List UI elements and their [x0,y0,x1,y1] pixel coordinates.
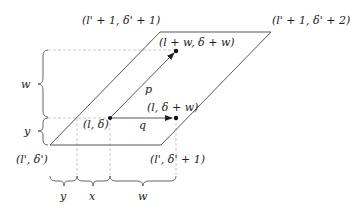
label-brace-left-upper: w [21,78,31,91]
label-brace-bottom-second: x [89,190,96,203]
label-top-left-corner: (l' + 1, δ' + 1) [82,14,160,27]
label-p-end-point: (l + w, δ + w) [159,36,235,49]
label-brace-left-lower: y [23,125,31,138]
brace-left-upper [38,50,48,117]
label-origin-point: (l, δ) [83,118,109,131]
point-p-end [174,49,178,53]
brace-bottom-third [110,176,176,186]
label-top-right-corner: (l' + 1, δ' + 2) [272,14,350,27]
brace-bottom-second [77,176,110,186]
label-vector-p: p [145,83,152,96]
point-q-end [174,116,178,120]
label-vector-q: q [139,119,146,132]
brace-bottom-first [50,176,77,186]
label-bottom-left-corner: (l', δ') [16,153,48,166]
label-brace-bottom-third: w [138,190,148,203]
label-brace-bottom-first: y [59,190,67,203]
brace-left-lower [38,118,48,145]
label-q-end-point: (l, δ + w) [147,101,198,114]
parallelogram-diagram: (l' + 1, δ' + 1) (l' + 1, δ' + 2) (l', δ… [0,0,354,215]
label-bottom-right-corner: (l', δ' + 1) [150,153,205,166]
